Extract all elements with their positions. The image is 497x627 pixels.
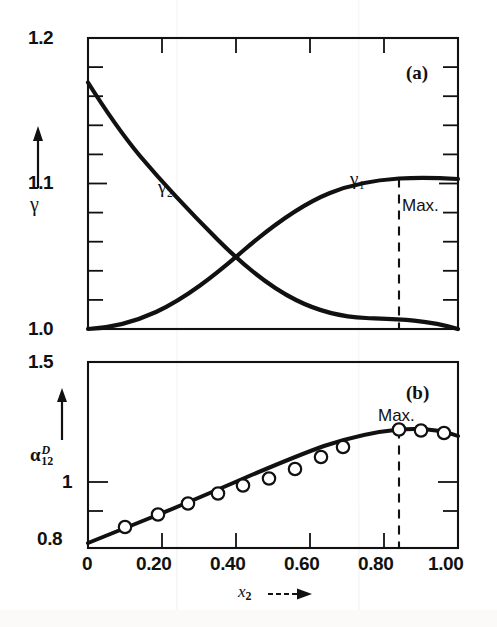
data-point bbox=[182, 497, 194, 509]
alpha-axis-title: αD12 bbox=[30, 444, 61, 466]
x-axis-title: x2 bbox=[238, 582, 252, 604]
xtick-020: 0.20 bbox=[136, 553, 171, 575]
panel-a-tag: (a) bbox=[406, 62, 428, 84]
figure-root bbox=[0, 0, 497, 627]
data-point bbox=[289, 463, 301, 475]
data-point bbox=[237, 479, 249, 491]
panel-b-max-label: Max. bbox=[378, 406, 415, 426]
data-point bbox=[212, 487, 224, 499]
data-point bbox=[415, 424, 427, 436]
panel-a-max-label: Max. bbox=[402, 196, 439, 216]
data-point bbox=[263, 472, 275, 484]
xtick-040: 0.40 bbox=[210, 553, 245, 575]
curve-label-gamma-1: γ₁ bbox=[350, 168, 365, 190]
data-point bbox=[152, 508, 164, 520]
xtick-080: 0.80 bbox=[358, 553, 393, 575]
x-axis-subscript: 2 bbox=[246, 589, 252, 603]
panel-a-ytick-3: 1.0 bbox=[28, 318, 53, 340]
data-point bbox=[119, 521, 131, 533]
panel-b-tag: (b) bbox=[406, 382, 429, 404]
figure-background bbox=[0, 0, 497, 627]
alpha-subscript: 12 bbox=[41, 454, 53, 468]
alpha-symbol: α bbox=[30, 444, 41, 465]
xtick-100: 1.00 bbox=[428, 553, 463, 575]
panel-a-ytick-2: 1.1 bbox=[28, 172, 53, 194]
data-point bbox=[337, 441, 349, 453]
panel-a-ytick-1: 1.2 bbox=[28, 27, 53, 49]
curve-label-gamma-2: γ₂ bbox=[158, 176, 173, 198]
panel-b-ytick-3: 0.8 bbox=[37, 528, 62, 550]
x-axis-symbol: x bbox=[238, 582, 246, 601]
data-point bbox=[438, 427, 450, 439]
data-point bbox=[315, 451, 327, 463]
xtick-060: 0.60 bbox=[284, 553, 319, 575]
gamma-axis-title: γ bbox=[30, 193, 39, 216]
panel-b-ytick-2: 1 bbox=[62, 471, 72, 493]
xtick-0: 0 bbox=[82, 553, 92, 575]
panel-b-ytick-1: 1.5 bbox=[28, 351, 53, 373]
